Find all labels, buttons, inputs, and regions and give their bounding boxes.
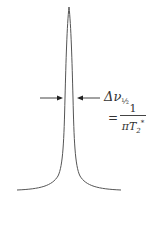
- pi-t-text: πT: [122, 120, 137, 133]
- equals-sign: =: [108, 111, 118, 125]
- linewidth-label: Δν½: [104, 89, 129, 104]
- right-arrow-icon: [77, 96, 100, 101]
- t2-subscript: 2: [136, 127, 140, 135]
- star-superscript: *: [141, 119, 145, 127]
- delta-nu-symbol: Δν: [104, 89, 121, 104]
- fraction-numerator: 1: [130, 103, 137, 115]
- linewidth-fraction: 1 πT2*: [120, 103, 146, 138]
- fraction-denominator: πT2*: [122, 116, 145, 138]
- left-arrow-icon: [40, 96, 63, 101]
